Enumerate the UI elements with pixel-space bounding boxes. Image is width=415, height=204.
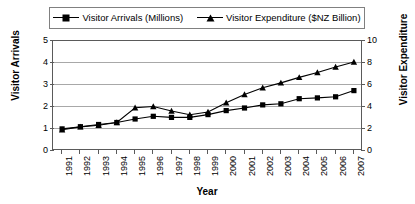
y-tick-mark: [361, 84, 365, 85]
x-tick-mark: [225, 150, 226, 154]
series-plot: [53, 40, 363, 150]
x-tick-label: 1995: [138, 156, 147, 176]
y-tick-mark: [50, 40, 54, 41]
y-axis-left-title: Visitor Arrivals: [10, 24, 21, 108]
x-tick-mark: [189, 150, 190, 154]
x-tick-mark: [280, 150, 281, 154]
data-point-marker: [133, 116, 138, 121]
data-point-marker: [351, 59, 357, 65]
data-point-marker: [333, 94, 338, 99]
x-tick-mark: [61, 150, 62, 154]
x-tick-mark: [116, 150, 117, 154]
y-tick-label: 0: [43, 146, 48, 155]
x-axis-title: Year: [52, 186, 362, 197]
x-tick-mark: [262, 150, 263, 154]
y-tick-mark: [50, 106, 54, 107]
data-point-marker: [223, 100, 229, 106]
y-tick-mark: [361, 40, 365, 41]
x-axis-tick-labels: 1991199219931994199519961997199819992000…: [52, 156, 362, 184]
y-axis-right-title: Visitor Expenditure: [398, 12, 409, 108]
series-line-2: [62, 62, 354, 130]
chart-container: Visitor Arrivals (Millions) Visitor Expe…: [0, 0, 415, 204]
x-tick-mark: [335, 150, 336, 154]
y-tick-label: 6: [367, 80, 372, 89]
y-tick-label: 4: [367, 102, 372, 111]
y-tick-mark: [361, 62, 365, 63]
y-tick-label: 5: [43, 36, 48, 45]
legend-label-visitor-expenditure: Visitor Expenditure ($NZ Billion): [226, 13, 360, 23]
x-tick-mark: [152, 150, 153, 154]
data-point-marker: [297, 96, 302, 101]
y-tick-label: 10: [367, 36, 377, 45]
data-point-marker: [169, 115, 174, 120]
data-point-marker: [351, 88, 356, 93]
legend-entry-visitor-arrivals: Visitor Arrivals (Millions): [53, 13, 183, 23]
x-tick-label: 1991: [65, 156, 74, 176]
data-point-marker: [278, 101, 283, 106]
x-tick-label: 1993: [102, 156, 111, 176]
chart-legend: Visitor Arrivals (Millions) Visitor Expe…: [49, 7, 365, 29]
x-tick-label: 1992: [83, 156, 92, 176]
x-tick-mark: [79, 150, 80, 154]
data-point-marker: [151, 114, 156, 119]
y-axis-left-ticks: 012345: [30, 40, 48, 150]
x-tick-mark: [298, 150, 299, 154]
x-tick-label: 2005: [320, 156, 329, 176]
x-tick-label: 2006: [339, 156, 348, 176]
x-tick-mark: [98, 150, 99, 154]
y-tick-mark: [361, 106, 365, 107]
y-axis-right-ticks: 0246810: [367, 40, 385, 150]
x-tick-mark: [353, 150, 354, 154]
x-tick-label: 2000: [229, 156, 238, 176]
x-tick-label: 1996: [156, 156, 165, 176]
data-point-marker: [242, 105, 247, 110]
y-tick-label: 2: [43, 102, 48, 111]
x-tick-label: 1998: [193, 156, 202, 176]
y-tick-label: 4: [43, 58, 48, 67]
x-tick-mark: [171, 150, 172, 154]
x-tick-mark: [134, 150, 135, 154]
square-marker-icon: [53, 13, 79, 23]
x-tick-label: 2003: [284, 156, 293, 176]
x-tick-label: 2002: [266, 156, 275, 176]
x-tick-label: 2001: [248, 156, 257, 176]
x-tick-label: 1997: [175, 156, 184, 176]
y-tick-label: 2: [367, 124, 372, 133]
y-tick-mark: [50, 84, 54, 85]
y-tick-label: 3: [43, 80, 48, 89]
triangle-marker-icon: [197, 13, 223, 23]
x-tick-mark: [244, 150, 245, 154]
x-axis-ticks: [52, 150, 362, 155]
legend-entry-visitor-expenditure: Visitor Expenditure ($NZ Billion): [197, 13, 360, 23]
y-tick-mark: [361, 128, 365, 129]
x-tick-label: 1999: [211, 156, 220, 176]
x-tick-label: 2007: [357, 156, 366, 176]
x-tick-label: 1994: [120, 156, 129, 176]
x-tick-label: 2004: [302, 156, 311, 176]
y-tick-mark: [50, 62, 54, 63]
legend-label-visitor-arrivals: Visitor Arrivals (Millions): [82, 13, 183, 23]
y-tick-mark: [50, 128, 54, 129]
y-tick-label: 0: [367, 146, 372, 155]
data-point-marker: [260, 102, 265, 107]
x-tick-mark: [207, 150, 208, 154]
x-tick-mark: [316, 150, 317, 154]
data-point-marker: [224, 108, 229, 113]
plot-area: [52, 40, 362, 150]
data-point-marker: [315, 95, 320, 100]
y-tick-label: 8: [367, 58, 372, 67]
y-tick-label: 1: [43, 124, 48, 133]
